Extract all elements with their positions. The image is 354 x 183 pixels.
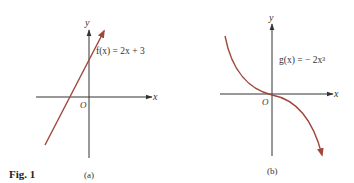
panel-a-origin-label: O xyxy=(80,100,87,110)
panel-b: y x O g(x) = − 2x³ (b) xyxy=(220,12,339,176)
panel-a-x-label: x xyxy=(152,91,158,102)
panel-b-origin-label: O xyxy=(262,97,269,107)
panel-a: y x O f(x) = 2x + 3 (a) xyxy=(36,17,158,180)
figure-canvas: y x O f(x) = 2x + 3 (a) y x O g(x) = − 2… xyxy=(0,0,354,183)
panel-b-function-label: g(x) = − 2x³ xyxy=(279,55,325,66)
panel-b-x-label: x xyxy=(333,88,339,99)
panel-a-function-label: f(x) = 2x + 3 xyxy=(96,46,145,57)
panel-b-function-curve xyxy=(225,36,322,155)
panel-b-sublabel: (b) xyxy=(267,166,278,176)
panel-a-y-label: y xyxy=(84,17,90,28)
panel-a-sublabel: (a) xyxy=(84,170,94,180)
figure-caption: Fig. 1 xyxy=(9,168,35,180)
panel-b-y-label: y xyxy=(268,12,274,23)
